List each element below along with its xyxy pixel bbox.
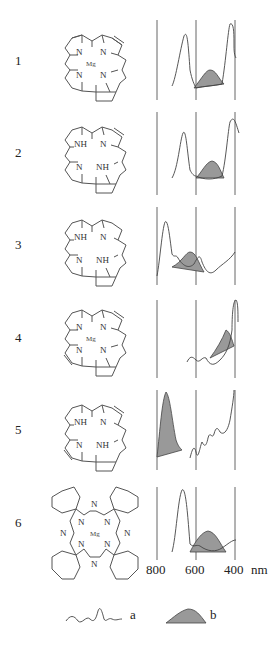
- svg-text:N: N: [78, 539, 85, 549]
- molecule-4-structure: N N N N Mg: [60, 303, 130, 378]
- spectrum-6: [157, 487, 236, 560]
- svg-text:N: N: [76, 70, 83, 80]
- row-label-3: 3: [15, 237, 22, 253]
- svg-text:N: N: [60, 528, 67, 538]
- molecule-1-structure: N N N N Mg: [60, 28, 130, 103]
- svg-text:N: N: [76, 345, 83, 355]
- svg-text:N: N: [104, 539, 111, 549]
- svg-text:N: N: [78, 517, 85, 527]
- axis-tick-800: 800: [146, 562, 166, 578]
- spectrum-2: [157, 112, 239, 195]
- axis-tick-400: 400: [224, 562, 244, 578]
- svg-text:NH: NH: [96, 440, 109, 450]
- svg-text:NH: NH: [74, 232, 87, 242]
- svg-text:N: N: [100, 139, 107, 149]
- svg-text:NH: NH: [96, 162, 109, 172]
- metal-label: Mg: [86, 335, 96, 343]
- svg-text:N: N: [76, 47, 83, 57]
- molecule-6-structure: N N N N N N N N Mg: [48, 485, 143, 585]
- legend-band-icon: [164, 605, 208, 625]
- molecule-3-structure: NH N N NH: [60, 213, 130, 288]
- svg-text:N: N: [76, 255, 83, 265]
- svg-text:NH: NH: [74, 139, 87, 149]
- spectra-panel: [150, 0, 277, 565]
- metal-label: Mg: [86, 60, 96, 68]
- svg-text:N: N: [91, 559, 98, 569]
- svg-text:N: N: [91, 499, 98, 509]
- row-label-1: 1: [15, 53, 22, 69]
- svg-text:NH: NH: [74, 417, 87, 427]
- svg-text:N: N: [100, 345, 107, 355]
- axis-unit-label: nm: [251, 562, 268, 578]
- svg-text:N: N: [100, 322, 107, 332]
- legend-label-a: a: [130, 607, 136, 623]
- row-label-4: 4: [15, 330, 22, 346]
- svg-text:N: N: [76, 162, 83, 172]
- axis-tick-600: 600: [185, 562, 205, 578]
- spectrum-1: [157, 20, 236, 100]
- legend-label-b: b: [210, 607, 217, 623]
- molecule-2-structure: NH N N NH: [60, 120, 130, 195]
- row-label-5: 5: [15, 422, 22, 438]
- spectrum-5: [157, 390, 235, 470]
- row-label-2: 2: [15, 145, 22, 161]
- legend-line-icon: [64, 605, 124, 625]
- svg-text:N: N: [104, 517, 111, 527]
- svg-text:N: N: [100, 70, 107, 80]
- molecule-5-structure: NH N N NH: [60, 398, 130, 473]
- svg-text:N: N: [100, 47, 107, 57]
- svg-text:N: N: [100, 232, 107, 242]
- svg-text:N: N: [76, 322, 83, 332]
- svg-text:N: N: [100, 417, 107, 427]
- spectrum-3: [157, 207, 235, 285]
- spectrum-4: [157, 300, 238, 378]
- row-label-6: 6: [15, 515, 22, 531]
- svg-text:N: N: [124, 528, 131, 538]
- metal-label: Mg: [90, 530, 100, 538]
- svg-text:NH: NH: [96, 255, 109, 265]
- svg-text:N: N: [76, 440, 83, 450]
